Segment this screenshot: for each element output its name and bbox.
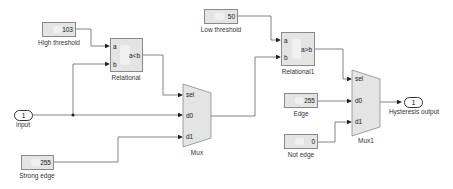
- relational1-port-b: b: [284, 54, 288, 61]
- mux-port-sel: sel: [186, 91, 194, 98]
- relational1-block[interactable]: a b a>b: [281, 32, 315, 66]
- high-threshold-value: 103: [62, 26, 73, 33]
- mux1-port-sel: sel: [355, 75, 363, 82]
- not-edge-block[interactable]: 0: [284, 134, 318, 149]
- relational-icon: [292, 39, 302, 58]
- relational-label: Relational: [112, 74, 141, 81]
- relational1-port-a: a: [284, 37, 288, 44]
- constant-icon: [215, 13, 225, 21]
- low-threshold-value: 50: [228, 13, 235, 20]
- mux1-label: Mux1: [358, 137, 374, 144]
- mux-port-d0: d0: [186, 112, 193, 119]
- constant-icon: [295, 97, 305, 105]
- input-port-block[interactable]: 1: [14, 110, 33, 121]
- mux1-port-d0: d0: [355, 97, 362, 104]
- relational-block[interactable]: a b a<b: [110, 38, 143, 72]
- line-relational-to-mux-sel: [143, 55, 182, 95]
- low-threshold-block[interactable]: 50: [204, 9, 238, 24]
- mux-label: Mux: [191, 149, 203, 156]
- relational1-label: Relational1: [282, 68, 315, 75]
- line-mux-to-relational1-b: [211, 57, 280, 116]
- line-high-to-relational-a: [76, 29, 109, 46]
- high-threshold-label: High threshold: [38, 39, 80, 46]
- strong-edge-value: 255: [40, 159, 51, 166]
- output-port-label: Hysteresis output: [389, 108, 439, 115]
- relational-operator: a<b: [129, 52, 140, 59]
- strong-edge-label: Strong edge: [19, 172, 54, 179]
- relational-port-a: a: [113, 43, 117, 50]
- line-low-to-relational1-a: [238, 16, 280, 40]
- output-port-block[interactable]: 1: [404, 97, 423, 108]
- line-junction-to-relational-b: [73, 64, 109, 115]
- edge-label: Edge: [293, 110, 308, 117]
- edge-block[interactable]: 255: [284, 93, 318, 108]
- branch-junction: [72, 114, 75, 117]
- constant-icon: [53, 26, 63, 34]
- mux-port-d1: d1: [186, 133, 193, 140]
- mux1-port-d1: d1: [355, 118, 362, 125]
- relational-port-b: b: [113, 61, 117, 68]
- constant-icon: [295, 138, 305, 146]
- line-notedge-to-mux1-d1: [318, 122, 351, 142]
- line-relational1-to-mux1-sel: [315, 49, 351, 79]
- strong-edge-block[interactable]: 255: [21, 155, 54, 170]
- high-threshold-block[interactable]: 103: [42, 22, 76, 37]
- line-strong-to-mux-d1: [54, 137, 182, 162]
- low-threshold-label: Low threshold: [201, 26, 241, 33]
- relational1-operator: a>b: [301, 46, 312, 53]
- not-edge-label: Not edge: [288, 151, 314, 158]
- not-edge-value: 0: [311, 138, 315, 145]
- input-port-label: input: [16, 121, 30, 128]
- edge-value: 255: [304, 97, 315, 104]
